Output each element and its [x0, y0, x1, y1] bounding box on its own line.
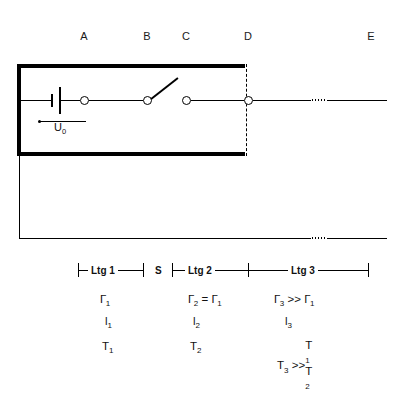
wire-battery-to-a [61, 100, 80, 101]
gamma2-rhs-subscript: 1 [217, 299, 221, 308]
gamma3-subscript: 3 [280, 299, 284, 308]
gamma3-relation: >> [288, 293, 301, 305]
conductor-top-rail [17, 64, 245, 68]
T3-relation: >> [292, 359, 305, 371]
T-stack-top-symbol: T [305, 340, 312, 351]
dim-label-ltg3: Ltg 3 [288, 265, 318, 276]
param-time-2: T2 [190, 340, 201, 357]
wire-left-stub [19, 100, 51, 101]
line-section-ltg3-left [253, 100, 311, 101]
terminal-c[interactable] [182, 96, 191, 105]
param-length-2: l2 [193, 315, 200, 332]
dim-tick-ltg3-end [368, 263, 369, 277]
T-stack-bottom-symbol: T [305, 366, 312, 377]
u0-subscript: 0 [62, 127, 66, 136]
T1-subscript: 1 [109, 346, 113, 355]
T3-symbol: T [277, 359, 284, 371]
T1-symbol: T [102, 340, 109, 352]
terminal-d[interactable] [244, 96, 253, 105]
gamma2-relation: = [202, 293, 209, 305]
battery-short-plate [51, 94, 53, 107]
dim-label-ltg1: Ltg 1 [88, 265, 118, 276]
gamma2-subscript: 2 [194, 299, 198, 308]
gamma1-subscript: 1 [106, 299, 110, 308]
T3-subscript: 3 [284, 366, 288, 375]
l2-subscript: 2 [196, 321, 200, 330]
u0-symbol: U [54, 121, 62, 133]
T-stack-bottom: T2 [305, 366, 312, 392]
terminal-a[interactable] [80, 96, 89, 105]
node-label-c: C [178, 30, 194, 42]
switch-blade-s[interactable] [151, 77, 179, 99]
l1-subscript: 1 [108, 321, 112, 330]
T2-symbol: T [190, 340, 197, 352]
return-conductor-dot-gap [311, 237, 327, 239]
return-conductor-horizontal-left [19, 238, 311, 239]
node-label-a: A [76, 30, 92, 42]
conductor-bottom-rail [17, 152, 245, 156]
T3-stacked-comparands: T1T2 [305, 340, 312, 393]
line-section-ltg1 [89, 100, 143, 101]
param-time-1: T1 [102, 340, 113, 357]
return-conductor-vertical [19, 156, 20, 239]
node-label-e: E [363, 30, 379, 42]
line-section-ltg3-dot-gap [311, 99, 327, 101]
param-length-1: l1 [105, 315, 112, 332]
param-length-3: l3 [285, 315, 292, 332]
conductor-left-rail [17, 64, 21, 156]
l3-subscript: 3 [288, 321, 292, 330]
line-section-ltg2 [191, 100, 244, 101]
T-stack-bottom-subscript: 2 [305, 383, 309, 392]
dim-tick-ltg1-end [143, 263, 144, 277]
line-section-ltg3-right [327, 100, 387, 101]
gamma3-rhs-subscript: 1 [310, 299, 314, 308]
T-stack-top-subscript: 1 [305, 356, 309, 365]
node-label-d: D [240, 30, 256, 42]
T-stack-top: T1 [305, 340, 312, 366]
source-voltage-annotation: U0 [38, 116, 98, 138]
param-time-3: T3 >>T1T2 [277, 340, 312, 393]
T2-subscript: 2 [197, 346, 201, 355]
dim-label-switch: S [152, 265, 165, 276]
dim-label-ltg2: Ltg 2 [185, 265, 215, 276]
node-label-b: B [139, 30, 155, 42]
param-gamma-1: Γ1 [100, 293, 110, 310]
param-gamma-2: Γ2 = Γ1 [188, 293, 222, 310]
param-gamma-3: Γ3 >> Γ1 [274, 293, 314, 310]
u0-label: U0 [54, 122, 66, 136]
return-conductor-horizontal-right [327, 238, 387, 239]
plane-d-dashed-line [246, 64, 247, 156]
